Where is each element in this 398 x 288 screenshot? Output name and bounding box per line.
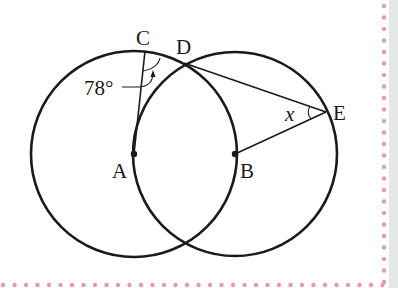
label-c: C xyxy=(136,26,150,50)
label-d: D xyxy=(176,35,191,59)
arrow-head-icon xyxy=(151,70,156,77)
label-b: B xyxy=(240,159,254,183)
angle-leader xyxy=(122,74,153,87)
point-a-dot xyxy=(131,151,137,157)
point-b-dot xyxy=(232,151,238,157)
segment-de xyxy=(184,63,326,112)
angle-arc-c xyxy=(143,58,160,71)
label-e: E xyxy=(333,101,346,125)
geometry-figure: C D E A B 78° x xyxy=(0,0,398,288)
dotted-border xyxy=(1,4,386,287)
segment-ac xyxy=(134,51,145,154)
label-a: A xyxy=(112,159,128,183)
label-x: x xyxy=(284,102,295,126)
angle-arc-e xyxy=(308,106,311,119)
segment-be xyxy=(235,112,326,154)
label-angle-78: 78° xyxy=(84,76,113,100)
